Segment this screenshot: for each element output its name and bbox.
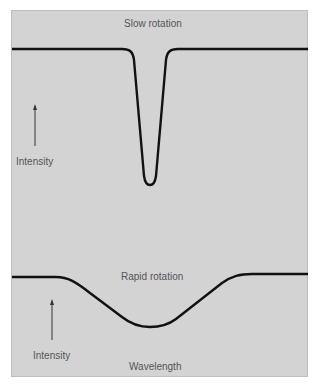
- wavelength-axis-label: Wavelength: [129, 361, 181, 373]
- intensity-arrow-icon-upper: [33, 104, 37, 146]
- spectral-line-diagram: [0, 0, 316, 386]
- intensity-label-lower: Intensity: [33, 350, 70, 362]
- slow-rotation-curve: [12, 49, 308, 185]
- rapid-rotation-title: Rapid rotation: [121, 271, 183, 283]
- intensity-arrow-icon-lower: [50, 299, 54, 340]
- slow-rotation-title: Slow rotation: [124, 18, 182, 30]
- intensity-label-upper: Intensity: [16, 156, 53, 168]
